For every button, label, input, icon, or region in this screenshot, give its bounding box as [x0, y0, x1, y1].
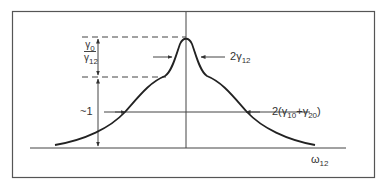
- narrow-width-label: 2γ12: [230, 51, 251, 62]
- diagram-frame: [13, 12, 375, 178]
- broad-width-label: 2(γ10+γ20): [272, 106, 321, 117]
- base-height-label: ~1: [80, 106, 93, 117]
- x-axis-label: ω12: [311, 154, 329, 165]
- peak-height-label: γ0 γ12: [84, 40, 96, 63]
